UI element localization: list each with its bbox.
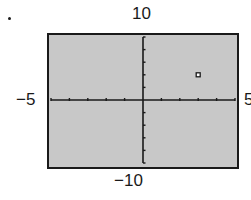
graph-window xyxy=(0,0,251,200)
data-points xyxy=(196,73,200,77)
data-point xyxy=(196,73,200,77)
